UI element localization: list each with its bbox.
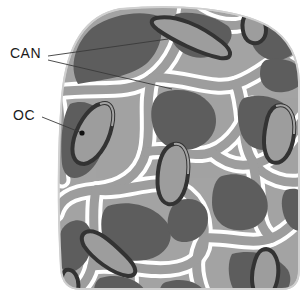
label-oc: OC: [13, 107, 35, 123]
bone-histology-figure: [0, 0, 306, 303]
leader-oc-endpoint-dot: [79, 130, 84, 135]
specimen-block: [56, 6, 306, 300]
label-can: CAN: [10, 45, 41, 61]
